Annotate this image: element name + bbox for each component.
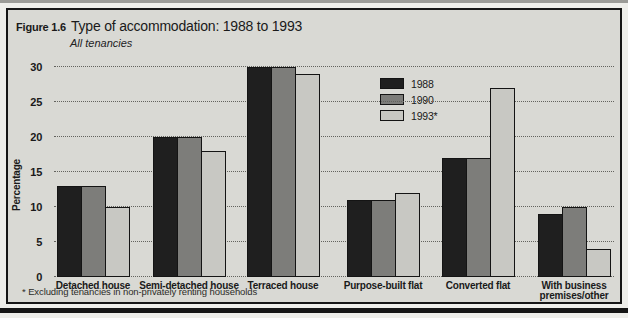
bar-1993-1 <box>105 207 130 277</box>
bottom-rule <box>0 308 628 313</box>
bar-1988-5 <box>442 158 467 277</box>
y-tick-label-30: 30 <box>18 61 42 73</box>
bar-group-3 <box>247 60 320 277</box>
gridline-10 <box>54 206 614 207</box>
bar-1993-4 <box>395 193 420 277</box>
bar-1988-3 <box>247 67 272 277</box>
bar-1988-1 <box>57 186 82 277</box>
scan-edge-band <box>0 0 628 3</box>
bar-1988-4 <box>347 200 372 277</box>
scanned-figure-page: Figure 1.6Type of accommodation: 1988 to… <box>0 0 628 318</box>
bar-1990-1 <box>81 186 106 277</box>
category-label-6: With business premises/other <box>519 281 628 301</box>
category-label-4: Purpose-built flat <box>328 281 438 291</box>
y-tick-label-20: 20 <box>18 131 42 143</box>
bar-1993-3 <box>295 74 320 277</box>
chart-plot-area: 198819901993* 051015202530Detached house… <box>54 60 616 277</box>
gridline-30 <box>54 66 614 67</box>
bar-1988-6 <box>538 214 563 277</box>
bar-group-5 <box>442 60 515 277</box>
figure-frame: Figure 1.6Type of accommodation: 1988 to… <box>6 8 622 304</box>
bar-1990-3 <box>271 67 296 277</box>
gridline-15 <box>54 171 614 172</box>
y-tick-label-10: 10 <box>18 201 42 213</box>
bar-1993-6 <box>586 249 611 277</box>
bar-1993-2 <box>201 151 226 277</box>
gridline-5 <box>54 241 614 242</box>
bar-1990-5 <box>466 158 491 277</box>
gridline-25 <box>54 101 614 102</box>
gridline-20 <box>54 136 614 137</box>
category-label-5: Converted flat <box>423 281 533 291</box>
y-tick-label-5: 5 <box>18 236 42 248</box>
bar-1990-4 <box>371 200 396 277</box>
bar-group-1 <box>57 60 130 277</box>
bar-group-6 <box>538 60 611 277</box>
bar-group-4 <box>347 60 420 277</box>
y-tick-label-15: 15 <box>18 166 42 178</box>
figure-subtitle: All tenancies <box>70 37 302 49</box>
bar-1988-2 <box>153 137 178 277</box>
gridline-0 <box>54 276 614 277</box>
figure-header: Figure 1.6Type of accommodation: 1988 to… <box>16 17 302 49</box>
footnote: * Excluding tenancies in non-privately r… <box>22 286 257 297</box>
figure-label: Figure 1.6 <box>16 21 66 33</box>
figure-title: Type of accommodation: 1988 to 1993 <box>71 18 302 34</box>
bar-1990-2 <box>177 137 202 277</box>
bar-1993-5 <box>490 88 515 277</box>
bar-group-2 <box>153 60 226 277</box>
bar-1990-6 <box>562 207 587 277</box>
y-tick-label-25: 25 <box>18 96 42 108</box>
